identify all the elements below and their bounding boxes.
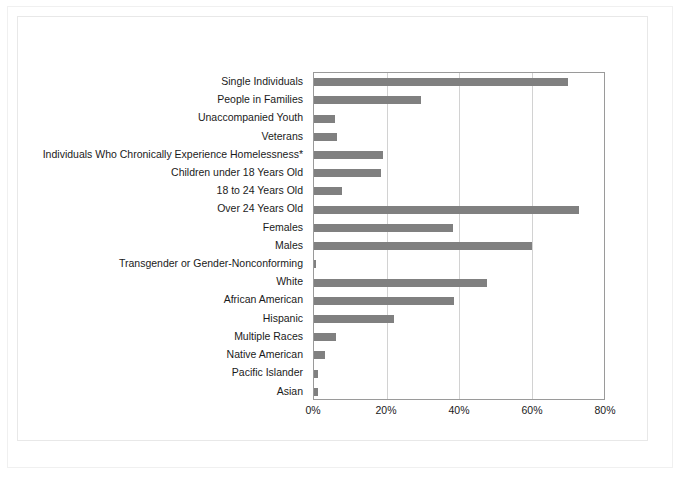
bar (314, 315, 394, 323)
bar (314, 133, 337, 141)
x-axis-tick-labels: 0%20%40%60%80% (313, 404, 605, 422)
category-label: Males (275, 240, 303, 251)
category-label-row: Children under 18 Years Old (20, 163, 308, 181)
bar-row (314, 146, 604, 164)
bar (314, 78, 568, 86)
category-label: Unaccompanied Youth (198, 112, 303, 123)
bar-row (314, 219, 604, 237)
category-label: Children under 18 Years Old (171, 167, 303, 178)
category-label-row: Native American (20, 345, 308, 363)
category-label-row: Males (20, 236, 308, 254)
bar-row (314, 346, 604, 364)
category-label-row: Unaccompanied Youth (20, 108, 308, 126)
category-label: Females (263, 222, 303, 233)
category-label: Individuals Who Chronically Experience H… (43, 149, 303, 160)
bar (314, 297, 454, 305)
bar-row (314, 73, 604, 91)
bar (314, 206, 579, 214)
category-label: 18 to 24 Years Old (217, 185, 303, 196)
category-label: Over 24 Years Old (217, 203, 303, 214)
x-tick-label: 60% (521, 404, 542, 416)
category-label-row: Females (20, 218, 308, 236)
category-label-row: People in Families (20, 90, 308, 108)
x-tick-label: 0% (305, 404, 320, 416)
category-label: Multiple Races (234, 331, 303, 342)
bar-row (314, 164, 604, 182)
bar (314, 242, 532, 250)
category-label-row: Multiple Races (20, 327, 308, 345)
bar-row (314, 91, 604, 109)
category-label: Native American (227, 349, 303, 360)
bar (314, 96, 421, 104)
bar-row (314, 365, 604, 383)
bar (314, 370, 318, 378)
category-label: Veterans (262, 131, 303, 142)
category-label-row: African American (20, 291, 308, 309)
horizontal-bar-chart: Single IndividualsPeople in FamiliesUnac… (0, 0, 683, 482)
bar (314, 333, 336, 341)
category-label: Pacific Islander (232, 367, 303, 378)
plot-area (313, 72, 605, 400)
x-tick-label: 80% (594, 404, 615, 416)
category-label-row: Pacific Islander (20, 364, 308, 382)
bar (314, 115, 335, 123)
bar (314, 224, 453, 232)
category-label: People in Families (217, 94, 303, 105)
category-label: White (276, 276, 303, 287)
category-label-row: White (20, 272, 308, 290)
bar-row (314, 182, 604, 200)
bar-row (314, 237, 604, 255)
bar-row (314, 255, 604, 273)
bar (314, 169, 381, 177)
bar (314, 187, 342, 195)
category-label: Hispanic (263, 313, 303, 324)
category-label-row: Transgender or Gender-Nonconforming (20, 254, 308, 272)
bar-row (314, 292, 604, 310)
bar (314, 151, 383, 159)
category-label-row: Veterans (20, 127, 308, 145)
category-label: Single Individuals (221, 76, 303, 87)
category-label: African American (224, 294, 303, 305)
category-label-row: 18 to 24 Years Old (20, 181, 308, 199)
bar (314, 260, 316, 268)
category-label-row: Hispanic (20, 309, 308, 327)
bar (314, 351, 325, 359)
category-label: Asian (277, 386, 303, 397)
category-label-row: Asian (20, 382, 308, 400)
category-label-row: Over 24 Years Old (20, 200, 308, 218)
bar-row (314, 383, 604, 401)
x-tick-label: 40% (448, 404, 469, 416)
x-tick-label: 20% (375, 404, 396, 416)
bars-layer (314, 73, 604, 399)
bar-row (314, 273, 604, 291)
bar (314, 388, 318, 396)
bar-row (314, 109, 604, 127)
category-label-row: Individuals Who Chronically Experience H… (20, 145, 308, 163)
bar-row (314, 128, 604, 146)
bar-row (314, 328, 604, 346)
bar (314, 279, 487, 287)
category-axis-labels: Single IndividualsPeople in FamiliesUnac… (20, 72, 308, 400)
bar-row (314, 310, 604, 328)
category-label-row: Single Individuals (20, 72, 308, 90)
bar-row (314, 201, 604, 219)
category-label: Transgender or Gender-Nonconforming (119, 258, 303, 269)
